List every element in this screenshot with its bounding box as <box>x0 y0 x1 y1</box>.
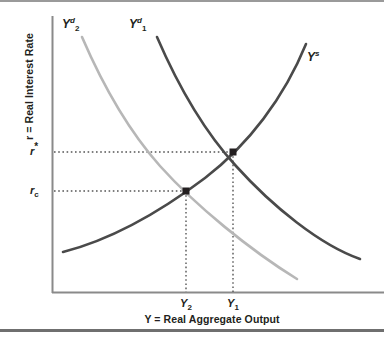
economics-chart-figure: r = Real Interest Rate Y = Real Aggregat… <box>0 0 384 342</box>
x-tick-label-y2-subscript: 2 <box>187 303 191 312</box>
curve-label-yd1-subscript: 1 <box>142 24 146 33</box>
curve-label-yd2: Yd2 <box>62 18 79 30</box>
curve-demand-yd1 <box>157 37 360 259</box>
curve-label-yd1: Yd1 <box>129 18 146 30</box>
y-tick-label-rc: rc <box>30 185 39 196</box>
x-tick-label-y2: Y2 <box>180 298 192 309</box>
x-tick-label-y1-subscript: 1 <box>234 303 238 312</box>
y-tick-label-r-star-superscript: * <box>34 141 38 152</box>
bottom-divider <box>0 329 384 332</box>
y-axis-title: r = Real Interest Rate <box>24 33 35 140</box>
equilibrium-marker-new <box>183 188 190 195</box>
curve-label-ys-main: Y <box>307 50 315 64</box>
curve-label-ys: Ys <box>307 51 319 63</box>
curve-label-ys-superscript: s <box>315 49 319 58</box>
y-tick-label-r-star: r* <box>30 146 38 157</box>
chart-canvas <box>0 0 384 342</box>
x-axis-title: Y = Real Aggregate Output <box>144 314 279 325</box>
curve-label-yd1-main: Y <box>129 17 137 31</box>
x-tick-label-y1: Y1 <box>227 298 239 309</box>
equilibrium-marker-original <box>230 149 237 156</box>
curve-label-yd2-main: Y <box>62 17 70 31</box>
curve-demand-yd2 <box>82 37 297 279</box>
curve-label-yd2-subscript: 2 <box>75 24 79 33</box>
y-tick-label-rc-subscript: c <box>34 190 38 199</box>
